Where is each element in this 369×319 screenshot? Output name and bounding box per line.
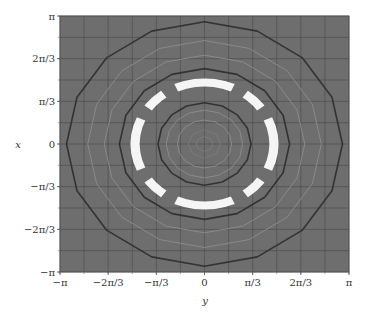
y-tick-label: 2π/3	[32, 53, 55, 64]
x-tick-label: π	[346, 277, 353, 288]
x-tick-label: 0	[201, 277, 207, 288]
x-tick-label: π/3	[245, 277, 261, 288]
x-tick-label: −π	[53, 277, 68, 288]
y-tick-label: −2π/3	[24, 224, 55, 235]
y-tick-label: −π/3	[30, 181, 55, 192]
x-axis-label: y	[201, 295, 208, 306]
x-tick-label: 2π/3	[289, 277, 312, 288]
y-axis-label: x	[15, 139, 21, 150]
plot-area	[60, 16, 349, 272]
x-tick-label: −2π/3	[93, 277, 124, 288]
y-tick-label: π	[48, 11, 55, 22]
y-tick-label: π/3	[39, 96, 55, 107]
x-tick-label: −π/3	[144, 277, 169, 288]
x-axis-ticks: −π−2π/3−π/30π/32π/3π	[53, 272, 353, 288]
y-tick-label: −π	[40, 267, 55, 278]
contour-plot: −π−2π/3−π/30π/32π/3π π2π/3π/30−π/3−2π/3−…	[0, 0, 369, 319]
y-axis-ticks: π2π/3π/30−π/3−2π/3−π	[24, 11, 60, 278]
y-tick-label: 0	[49, 139, 55, 150]
